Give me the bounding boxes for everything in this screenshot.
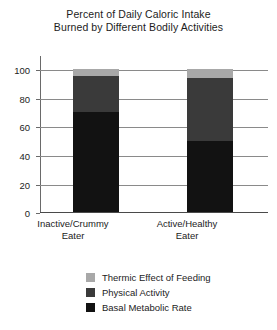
x-category-label-line-1: Inactive/Crummy xyxy=(18,218,128,230)
x-category-label-inactive-crummy-eater: Inactive/Crummy Eater xyxy=(18,218,128,241)
chart-title-line-2: Burned by Different Bodily Activities xyxy=(0,21,277,34)
x-category-label-active-healthy-eater: Active/Healthy Eater xyxy=(132,218,242,241)
bar-segment-basal-metabolic-rate[interactable] xyxy=(73,112,119,212)
bar-segment-thermic-effect-of-feeding[interactable] xyxy=(187,69,233,78)
y-tick-0: 0 xyxy=(36,213,40,214)
legend-swatch-physical-activity xyxy=(86,288,95,297)
legend-swatch-basal-metabolic-rate xyxy=(86,303,95,312)
stacked-bar-chart: Percent of Daily Caloric Intake Burned b… xyxy=(0,0,277,330)
bar-segment-basal-metabolic-rate[interactable] xyxy=(187,141,233,212)
plot-area: 100 80 60 40 20 0 xyxy=(40,56,268,213)
y-tick-100: 100 xyxy=(36,70,40,71)
y-tick-label-60: 60 xyxy=(19,122,30,133)
x-category-label-line-2: Eater xyxy=(132,230,242,242)
legend-item-physical-activity[interactable]: Physical Activity xyxy=(86,285,211,300)
bar-active-healthy-eater[interactable] xyxy=(187,69,233,212)
chart-title-line-1: Percent of Daily Caloric Intake xyxy=(0,8,277,21)
y-tick-20: 20 xyxy=(36,185,40,186)
y-tick-60: 60 xyxy=(36,127,40,128)
bar-segment-physical-activity[interactable] xyxy=(73,76,119,112)
chart-title: Percent of Daily Caloric Intake Burned b… xyxy=(0,8,277,34)
x-category-label-line-1: Active/Healthy xyxy=(132,218,242,230)
bar-segment-thermic-effect-of-feeding[interactable] xyxy=(73,69,119,76)
bar-inactive-crummy-eater[interactable] xyxy=(73,69,119,212)
y-tick-80: 80 xyxy=(36,99,40,100)
legend-item-thermic-effect-of-feeding[interactable]: Thermic Effect of Feeding xyxy=(86,270,211,285)
y-tick-label-80: 80 xyxy=(19,93,30,104)
legend-label-thermic-effect-of-feeding: Thermic Effect of Feeding xyxy=(102,272,211,283)
legend-item-basal-metabolic-rate[interactable]: Basal Metabolic Rate xyxy=(86,300,211,315)
bar-segment-physical-activity[interactable] xyxy=(187,78,233,141)
x-category-label-line-2: Eater xyxy=(18,230,128,242)
legend-label-basal-metabolic-rate: Basal Metabolic Rate xyxy=(102,302,192,313)
x-axis-line xyxy=(40,212,268,213)
y-tick-label-0: 0 xyxy=(25,208,30,219)
legend-label-physical-activity: Physical Activity xyxy=(102,287,170,298)
y-tick-label-100: 100 xyxy=(14,65,30,76)
legend-swatch-thermic-effect-of-feeding xyxy=(86,273,95,282)
y-axis-line xyxy=(40,56,41,213)
chart-legend: Thermic Effect of Feeding Physical Activ… xyxy=(86,270,211,315)
y-tick-label-20: 20 xyxy=(19,179,30,190)
y-tick-40: 40 xyxy=(36,156,40,157)
y-tick-label-40: 40 xyxy=(19,150,30,161)
